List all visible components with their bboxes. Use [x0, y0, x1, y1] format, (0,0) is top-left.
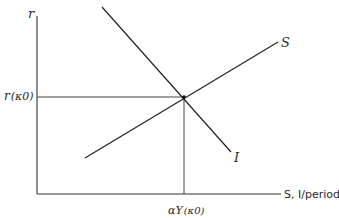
investment-curve [102, 7, 231, 152]
equilibrium-quantity-paren: (κ0) [184, 205, 205, 216]
equilibrium-point [182, 95, 186, 99]
equilibrium-rate-paren: (κ0) [11, 90, 34, 103]
x-axis-label: S, I/period [284, 188, 339, 201]
sav-inv-diagram: r r(κ0) S I S, I/period αY(κ0) [0, 0, 339, 218]
equilibrium-quantity-label: αY(κ0) [168, 204, 205, 217]
savings-curve [85, 42, 278, 158]
y-axis-label: r [28, 6, 35, 21]
equilibrium-quantity-main: αY [168, 204, 184, 217]
savings-curve-label: S [281, 35, 290, 50]
equilibrium-rate-label: r(κ0) [4, 89, 34, 103]
investment-curve-label: I [233, 150, 240, 165]
